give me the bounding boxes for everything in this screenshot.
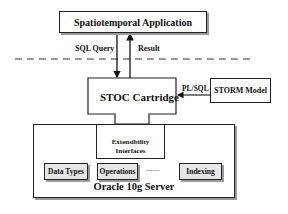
indexing-box: Indexing xyxy=(179,163,222,180)
indexing-label: Indexing xyxy=(186,167,214,176)
operations-label: Operations xyxy=(100,167,136,176)
storm-model-label: STORM Model xyxy=(214,86,267,95)
stoc-cartridge-shape xyxy=(0,0,288,214)
plsql-label: PL/SQL xyxy=(182,84,209,93)
stoc-cartridge-label: STOC Cartridge xyxy=(100,91,179,103)
operations-box: Operations xyxy=(97,163,138,180)
data-types-label: Data Types xyxy=(48,167,84,176)
storm-model-box: STORM Model xyxy=(210,78,271,103)
ellipsis-label: ....... xyxy=(146,164,160,173)
data-types-box: Data Types xyxy=(44,163,88,180)
